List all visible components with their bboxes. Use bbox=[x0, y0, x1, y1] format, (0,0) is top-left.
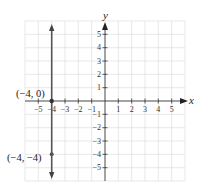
y-axis-label: y bbox=[102, 9, 108, 21]
x-axis-label: x bbox=[188, 94, 194, 106]
y-tick-label: 4 bbox=[97, 43, 101, 52]
x-tick-label: 1 bbox=[116, 105, 120, 114]
x-tick-label: −5 bbox=[34, 105, 43, 114]
y-tick-label: −5 bbox=[92, 163, 101, 172]
line-up-arrow-icon bbox=[49, 24, 54, 31]
y-tick-label: 5 bbox=[97, 30, 101, 39]
x-axis bbox=[25, 98, 188, 104]
y-axis-arrow-icon bbox=[102, 22, 108, 30]
y-tick-label: 3 bbox=[97, 57, 101, 66]
x-tick-label: −3 bbox=[61, 105, 70, 114]
x-tick-label: −2 bbox=[74, 105, 83, 114]
point-label-b: (−4, −4) bbox=[7, 152, 42, 164]
point-neg4-neg4 bbox=[50, 152, 54, 156]
x-tick-label: 2 bbox=[130, 105, 134, 114]
y-axis bbox=[102, 22, 108, 181]
point-neg4-0 bbox=[50, 99, 54, 103]
point-label-a: (−4, 0) bbox=[16, 88, 45, 100]
y-tick-label: −1 bbox=[92, 110, 101, 119]
x-tick-label: 4 bbox=[156, 105, 160, 114]
x-tick-label: 3 bbox=[143, 105, 147, 114]
x-tick-label: 5 bbox=[170, 105, 174, 114]
line-down-arrow-icon bbox=[49, 172, 54, 179]
y-tick-label: 2 bbox=[97, 70, 101, 79]
y-tick-label: −2 bbox=[92, 123, 101, 132]
y-tick-label: −3 bbox=[92, 137, 101, 146]
y-tick-label: −4 bbox=[92, 150, 101, 159]
y-tick-label: 1 bbox=[97, 83, 101, 92]
x-axis-arrow-icon bbox=[180, 98, 188, 104]
coordinate-plane: −5 −4 −3 −2 −1 1 2 3 4 5 5 4 3 2 1 −1 −2… bbox=[0, 0, 204, 194]
